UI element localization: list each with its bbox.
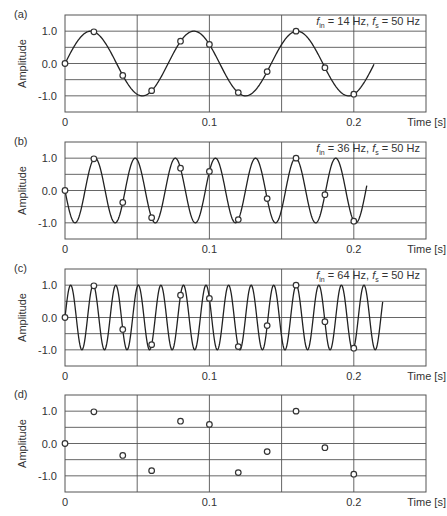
sample-point: [120, 73, 126, 79]
y-tick-label: 1.0: [42, 25, 57, 37]
panel-c: 1.00.0-1.000.10.2Time [s]Amplitude(c)fin…: [14, 262, 446, 382]
frequency-annotation: fin = 14 Hz, fs = 50 Hz: [316, 15, 420, 29]
sample-point: [178, 165, 184, 171]
y-tick-label: -1.0: [38, 90, 57, 102]
x-axis-label: Time [s]: [407, 243, 446, 255]
frequency-annotation: fin = 36 Hz, fs = 50 Hz: [316, 142, 420, 156]
y-axis-label: Amplitude: [16, 293, 28, 342]
sample-point: [120, 200, 126, 206]
x-tick-label: 0: [62, 243, 68, 255]
panel-a: 1.00.0-1.000.10.2Time [s]Amplitude(a)fin…: [14, 8, 446, 128]
sample-point: [264, 323, 270, 329]
y-tick-label: -1.0: [38, 470, 57, 482]
sample-point: [293, 282, 299, 288]
y-tick-label: 1.0: [42, 152, 57, 164]
panel-b: 1.00.0-1.000.10.2Time [s]Amplitude(b)fin…: [14, 135, 446, 255]
y-tick-label: 0.0: [42, 58, 57, 70]
y-tick-label: -1.0: [38, 344, 57, 356]
y-axis-label: Amplitude: [16, 39, 28, 88]
y-tick-label: 0.0: [42, 438, 57, 450]
sample-point: [293, 155, 299, 161]
y-tick-label: -1.0: [38, 217, 57, 229]
x-tick-label: 0: [62, 116, 68, 128]
sample-point: [149, 468, 155, 474]
sample-point: [235, 217, 241, 223]
x-axis-label: Time [s]: [407, 496, 446, 508]
panel-label: (c): [14, 262, 27, 274]
x-tick-label: 0.2: [346, 496, 361, 508]
sample-point: [235, 344, 241, 350]
sample-point: [264, 69, 270, 75]
x-axis-label: Time [s]: [407, 370, 446, 382]
sample-point: [91, 156, 97, 162]
sample-point: [322, 65, 328, 71]
sample-point: [351, 218, 357, 224]
x-tick-label: 0.2: [346, 370, 361, 382]
sample-point: [235, 470, 241, 476]
panel-label: (a): [14, 8, 27, 20]
panel-label: (b): [14, 135, 27, 147]
sample-point: [351, 91, 357, 97]
y-tick-label: 0.0: [42, 312, 57, 324]
sample-point: [351, 471, 357, 477]
sample-point: [207, 422, 213, 428]
sample-point: [322, 445, 328, 451]
sample-point: [149, 215, 155, 221]
y-tick-label: 0.0: [42, 185, 57, 197]
sample-point: [120, 453, 126, 459]
sample-point: [120, 327, 126, 333]
sample-point: [91, 29, 97, 35]
panel-label: (d): [14, 388, 27, 400]
y-tick-label: 1.0: [42, 279, 57, 291]
x-tick-label: 0.2: [346, 243, 361, 255]
sample-point: [207, 42, 213, 48]
y-axis-label: Amplitude: [16, 419, 28, 468]
sample-point: [207, 296, 213, 302]
sample-point: [62, 315, 68, 321]
sample-point: [178, 38, 184, 44]
x-tick-label: 0.1: [202, 116, 217, 128]
x-axis-label: Time [s]: [407, 116, 446, 128]
x-tick-label: 0.1: [202, 243, 217, 255]
aliasing-figure: 1.00.0-1.000.10.2Time [s]Amplitude(a)fin…: [0, 0, 447, 516]
sample-point: [351, 345, 357, 351]
sample-point: [235, 90, 241, 96]
sample-point: [322, 192, 328, 198]
sample-point: [62, 441, 68, 447]
y-tick-label: 1.0: [42, 405, 57, 417]
x-tick-label: 0.1: [202, 496, 217, 508]
sample-point: [207, 169, 213, 175]
x-tick-label: 0.1: [202, 370, 217, 382]
sample-point: [322, 319, 328, 325]
sample-point: [178, 418, 184, 424]
sample-point: [62, 188, 68, 194]
sample-point: [149, 88, 155, 94]
x-tick-label: 0: [62, 496, 68, 508]
sample-point: [149, 342, 155, 348]
sample-point: [264, 196, 270, 202]
sample-point: [178, 292, 184, 298]
sample-point: [293, 408, 299, 414]
chart-canvas: 1.00.0-1.000.10.2Time [s]Amplitude(a)fin…: [0, 0, 447, 516]
x-tick-label: 0.2: [346, 116, 361, 128]
sample-point: [264, 449, 270, 455]
sample-point: [293, 28, 299, 34]
sample-point: [91, 283, 97, 289]
sample-point: [62, 61, 68, 67]
x-tick-label: 0: [62, 370, 68, 382]
sample-point: [91, 409, 97, 415]
frequency-annotation: fin = 64 Hz, fs = 50 Hz: [316, 269, 420, 283]
y-axis-label: Amplitude: [16, 166, 28, 215]
panel-d: 1.00.0-1.000.10.2Time [s]Amplitude(d): [14, 388, 446, 508]
